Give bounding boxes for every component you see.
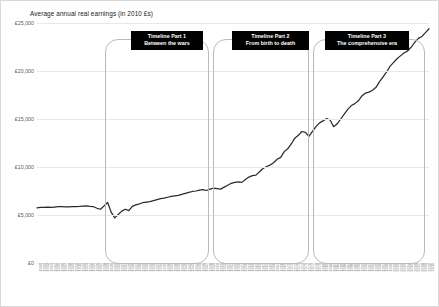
timeline-callout-3-subtitle: The comprehensive era: [329, 40, 405, 47]
timeline-callout-3-title: Timeline Part 3: [329, 33, 405, 40]
y-axis-tick-label: £15,000: [15, 116, 34, 122]
y-axis-tick-label: £0: [28, 260, 34, 266]
chart-figure: Average annual real earnings (in 2010 £s…: [0, 0, 439, 307]
y-axis-tick-label: £25,000: [15, 20, 34, 26]
chart-title: Average annual real earnings (in 2010 £s…: [30, 10, 153, 17]
y-axis-tick-label: £20,000: [15, 68, 34, 74]
timeline-callout-1: Timeline Part 1 Between the wars: [131, 31, 203, 50]
timeline-callout-3: Timeline Part 3 The comprehensive era: [325, 31, 409, 50]
timeline-bracket-1: [105, 39, 209, 264]
timeline-callout-1-title: Timeline Part 1: [135, 33, 199, 40]
timeline-callout-1-subtitle: Between the wars: [135, 40, 199, 47]
y-gridline: [37, 23, 429, 24]
timeline-bracket-2: [213, 39, 309, 264]
timeline-callout-2-title: Timeline Part 2: [236, 33, 305, 40]
timeline-callout-2: Timeline Part 2 From birth to death: [232, 31, 309, 50]
timeline-callout-2-subtitle: From birth to death: [236, 40, 305, 47]
y-axis-tick-label: £10,000: [15, 164, 34, 170]
x-axis-tick-label: 2011: [430, 263, 435, 271]
y-axis-tick-label: £5,000: [18, 212, 34, 218]
x-axis-tick-labels: 1900190119021903190419051906190719081909…: [37, 263, 429, 297]
timeline-bracket-3: [313, 39, 425, 264]
